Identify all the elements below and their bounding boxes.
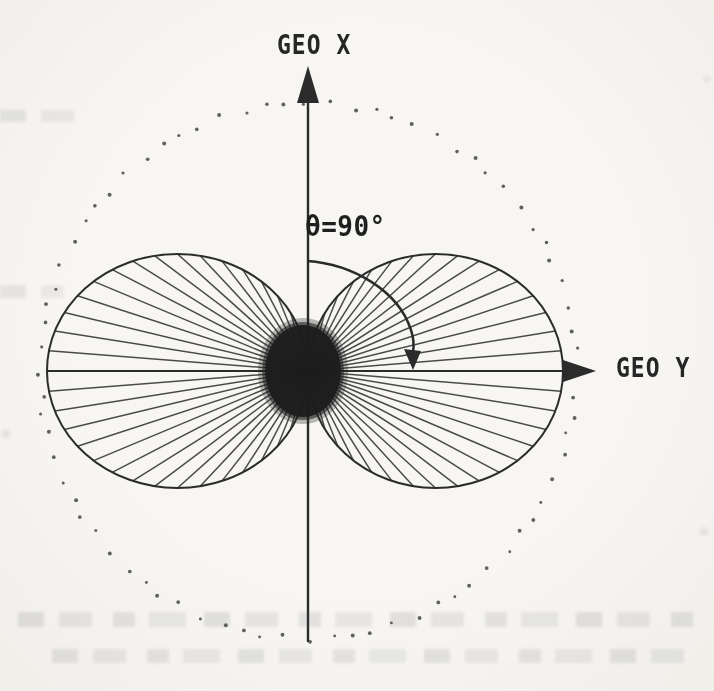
angle-annotation: θ=90°	[305, 212, 386, 241]
center-origin-blob	[258, 318, 348, 424]
axis-label-geo-x: GEO X	[277, 33, 351, 59]
axis-label-geo-y: GEO Y	[616, 356, 690, 382]
scanned-figure-page: GEO X GEO Y θ=90°	[0, 0, 714, 691]
radiation-pattern-figure	[0, 0, 714, 691]
